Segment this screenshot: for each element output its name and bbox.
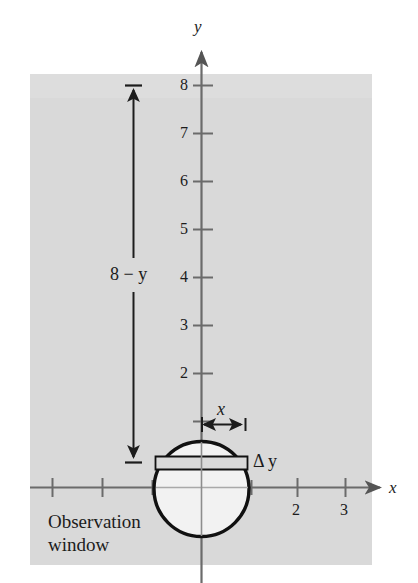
strip-width-label: x bbox=[217, 400, 225, 418]
x-tick-label-3: 3 bbox=[340, 502, 348, 518]
y-axis-label: y bbox=[194, 18, 202, 35]
y-tick-label-3: 3 bbox=[180, 317, 188, 333]
observation-window-caption-line2: window bbox=[48, 534, 109, 556]
x-axis-label: x bbox=[389, 479, 397, 496]
y-tick-label-4: 4 bbox=[180, 269, 188, 285]
figure-canvas: y x 8 7 6 5 4 3 2 2 3 8 − y x Δ y Observ… bbox=[0, 0, 418, 583]
observation-window-caption-line1: Observation bbox=[48, 511, 141, 533]
y-tick-label-6: 6 bbox=[180, 173, 188, 189]
x-tick-label-2: 2 bbox=[292, 502, 300, 518]
y-tick-label-5: 5 bbox=[180, 221, 188, 237]
depth-label: 8 − y bbox=[110, 265, 147, 283]
strip-thickness-label: Δ y bbox=[253, 452, 277, 470]
y-tick-label-8: 8 bbox=[180, 77, 188, 93]
diagram-svg bbox=[0, 0, 418, 583]
y-tick-label-7: 7 bbox=[180, 125, 188, 141]
y-tick-label-2: 2 bbox=[180, 365, 188, 381]
